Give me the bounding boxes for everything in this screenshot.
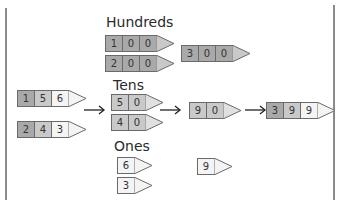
ones-sum-9: 9 xyxy=(197,158,233,175)
arrow-right-icon xyxy=(84,105,106,115)
digit-tile-tens: 9 xyxy=(283,102,301,119)
digit-tile-ones: 6 xyxy=(51,90,69,107)
digit-tile: 0 xyxy=(139,55,157,72)
digit-tile-hundreds: 1 xyxy=(17,90,35,107)
arrow-right-icon xyxy=(245,105,267,115)
digit-tile: 6 xyxy=(117,157,135,174)
pencil-tip-icon xyxy=(214,158,233,175)
digit-tile: 5 xyxy=(111,94,129,111)
digit-tile-tens: 5 xyxy=(34,90,52,107)
result-number-399: 3 9 9 xyxy=(266,102,336,119)
hundreds-200: 2 0 0 xyxy=(105,55,175,72)
arrow-right-icon xyxy=(160,105,182,115)
digit-tile: 3 xyxy=(181,45,199,62)
pencil-tip-icon xyxy=(145,114,164,131)
pencil-tip-icon xyxy=(156,35,175,52)
pencil-tip-icon xyxy=(317,102,336,119)
pencil-tip-icon xyxy=(134,157,153,174)
digit-tile: 4 xyxy=(111,114,129,131)
pencil-tip-icon xyxy=(156,55,175,72)
digit-tile-ones: 3 xyxy=(51,121,69,138)
digit-tile-ones: 9 xyxy=(300,102,318,119)
left-border-line xyxy=(5,8,7,200)
ones-6: 6 xyxy=(117,157,153,174)
digit-tile: 1 xyxy=(105,35,123,52)
digit-tile: 0 xyxy=(122,35,140,52)
digit-tile: 0 xyxy=(128,94,146,111)
tens-label: Tens xyxy=(113,78,144,92)
digit-tile-tens: 4 xyxy=(34,121,52,138)
digit-tile: 2 xyxy=(105,55,123,72)
digit-tile: 9 xyxy=(189,102,207,119)
input-number-156: 1 5 6 xyxy=(17,90,87,107)
pencil-tip-icon xyxy=(68,121,87,138)
tens-40: 4 0 xyxy=(111,114,164,131)
ones-3: 3 xyxy=(117,177,153,194)
pencil-tip-icon xyxy=(223,102,242,119)
hundreds-label: Hundreds xyxy=(106,15,173,29)
hundreds-sum-300: 3 0 0 xyxy=(181,45,251,62)
input-number-243: 2 4 3 xyxy=(17,121,87,138)
digit-tile: 0 xyxy=(139,35,157,52)
digit-tile: 0 xyxy=(206,102,224,119)
ones-label: Ones xyxy=(114,139,150,153)
tens-sum-90: 9 0 xyxy=(189,102,242,119)
digit-tile: 9 xyxy=(197,158,215,175)
digit-tile: 0 xyxy=(122,55,140,72)
digit-tile: 0 xyxy=(198,45,216,62)
digit-tile-hundreds: 3 xyxy=(266,102,284,119)
pencil-tip-icon xyxy=(134,177,153,194)
tens-50: 5 0 xyxy=(111,94,164,111)
digit-tile-hundreds: 2 xyxy=(17,121,35,138)
hundreds-100: 1 0 0 xyxy=(105,35,175,52)
digit-tile: 0 xyxy=(215,45,233,62)
pencil-tip-icon xyxy=(232,45,251,62)
digit-tile: 3 xyxy=(117,177,135,194)
digit-tile: 0 xyxy=(128,114,146,131)
